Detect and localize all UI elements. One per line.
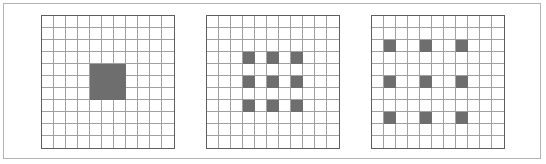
grid-cell-filled xyxy=(267,76,279,88)
grid-cell-empty xyxy=(396,28,408,40)
grid-cell-empty xyxy=(114,52,126,64)
grid-cell-filled xyxy=(267,52,279,64)
grid-cell-empty xyxy=(303,88,315,100)
grid-cell-empty xyxy=(480,16,492,28)
grid-cell-empty xyxy=(54,88,66,100)
grid-cell-empty xyxy=(138,112,150,124)
grid-cell-empty xyxy=(114,40,126,52)
grid-cell-empty xyxy=(456,52,468,64)
grid-cell-empty xyxy=(291,88,303,100)
grid-cell-empty xyxy=(66,64,78,76)
grid-cell-empty xyxy=(138,136,150,148)
grid-cell-empty xyxy=(243,88,255,100)
grid-cell-empty xyxy=(480,100,492,112)
grid-cell-empty xyxy=(372,136,384,148)
grid-cell-empty xyxy=(207,52,219,64)
grid-cell-empty xyxy=(162,76,174,88)
grid-cell-empty xyxy=(126,100,138,112)
grid-cell-empty xyxy=(480,28,492,40)
grid-cell-empty xyxy=(219,136,231,148)
grid-cell-empty xyxy=(372,28,384,40)
grid-cell-empty xyxy=(162,40,174,52)
grid-cell-empty xyxy=(444,64,456,76)
panel-row xyxy=(4,4,542,160)
grid-cell-empty xyxy=(150,28,162,40)
grid-cell-filled xyxy=(102,88,114,100)
grid-cell-empty xyxy=(315,88,327,100)
grid-cell-empty xyxy=(78,100,90,112)
grid-cell-empty xyxy=(396,40,408,52)
grid-cell-empty xyxy=(315,112,327,124)
grid-cell-empty xyxy=(303,100,315,112)
kernel-grid xyxy=(41,15,175,149)
grid-cell-empty xyxy=(162,64,174,76)
grid-cell-empty xyxy=(303,52,315,64)
grid-cell-empty xyxy=(78,124,90,136)
grid-cell-empty xyxy=(243,64,255,76)
grid-cell-empty xyxy=(54,136,66,148)
grid-cell-empty xyxy=(456,124,468,136)
grid-cell-empty xyxy=(231,124,243,136)
grid-cell-empty xyxy=(420,28,432,40)
grid-cell-empty xyxy=(468,40,480,52)
grid-cell-empty xyxy=(372,64,384,76)
grid-cell-empty xyxy=(255,112,267,124)
grid-cell-empty xyxy=(432,16,444,28)
grid-cell-empty xyxy=(90,28,102,40)
grid-cell-empty xyxy=(327,136,339,148)
grid-cell-empty xyxy=(66,28,78,40)
grid-cell-empty xyxy=(291,124,303,136)
grid-cell-empty xyxy=(231,112,243,124)
grid-cell-empty xyxy=(102,16,114,28)
grid-cell-empty xyxy=(279,112,291,124)
grid-cell-empty xyxy=(279,88,291,100)
grid-cell-empty xyxy=(396,88,408,100)
grid-cell-empty xyxy=(444,16,456,28)
grid-cell-empty xyxy=(150,88,162,100)
grid-cell-empty xyxy=(114,136,126,148)
grid-cell-empty xyxy=(243,16,255,28)
grid-cell-empty xyxy=(432,64,444,76)
grid-cell-empty xyxy=(66,16,78,28)
grid-cell-empty xyxy=(291,40,303,52)
grid-cell-filled xyxy=(456,40,468,52)
grid-cell-empty xyxy=(54,16,66,28)
grid-cell-empty xyxy=(315,76,327,88)
grid-cell-empty xyxy=(90,124,102,136)
grid-cell-empty xyxy=(42,16,54,28)
grid-cell-empty xyxy=(150,40,162,52)
grid-cell-empty xyxy=(231,136,243,148)
grid-cell-empty xyxy=(126,124,138,136)
grid-cell-empty xyxy=(267,64,279,76)
grid-cell-empty xyxy=(66,40,78,52)
grid-cell-filled xyxy=(90,64,102,76)
grid-cell-empty xyxy=(231,76,243,88)
grid-cell-empty xyxy=(303,64,315,76)
grid-cell-empty xyxy=(291,112,303,124)
grid-cell-empty xyxy=(126,28,138,40)
grid-cell-empty xyxy=(492,112,504,124)
grid-cell-empty xyxy=(396,112,408,124)
grid-cell-empty xyxy=(138,40,150,52)
grid-cell-empty xyxy=(255,64,267,76)
grid-cell-empty xyxy=(279,16,291,28)
grid-cell-empty xyxy=(468,16,480,28)
grid-cell-empty xyxy=(114,28,126,40)
grid-cell-empty xyxy=(492,88,504,100)
grid-cell-empty xyxy=(384,136,396,148)
grid-cell-empty xyxy=(90,100,102,112)
grid-cell-empty xyxy=(408,76,420,88)
grid-cell-empty xyxy=(162,28,174,40)
grid-cell-empty xyxy=(138,100,150,112)
grid-cell-filled xyxy=(384,112,396,124)
grid-cell-empty xyxy=(42,28,54,40)
grid-cell-empty xyxy=(267,40,279,52)
grid-cell-empty xyxy=(138,88,150,100)
grid-cell-empty xyxy=(492,124,504,136)
grid-cell-empty xyxy=(126,76,138,88)
grid-cell-empty xyxy=(468,124,480,136)
grid-cell-empty xyxy=(138,52,150,64)
grid-cell-empty xyxy=(432,100,444,112)
grid-cell-empty xyxy=(102,40,114,52)
grid-cell-empty xyxy=(492,52,504,64)
